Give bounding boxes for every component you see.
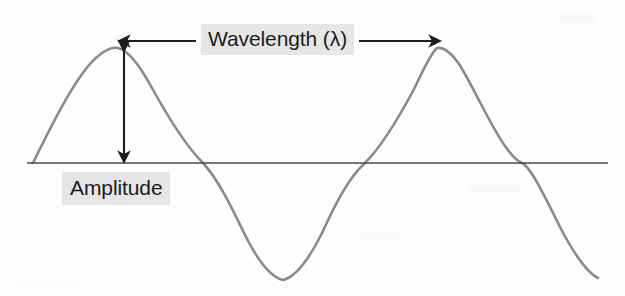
sine-wave-curve — [33, 48, 598, 280]
wave-diagram-figure: Wavelength (λ) Amplitude — [0, 0, 625, 296]
wavelength-label: Wavelength (λ) — [201, 24, 354, 55]
amplitude-label: Amplitude — [62, 172, 170, 205]
